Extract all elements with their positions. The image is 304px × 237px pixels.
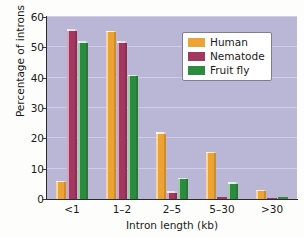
bar bbox=[78, 41, 88, 199]
legend-swatch-icon bbox=[188, 52, 205, 61]
bar bbox=[128, 75, 138, 199]
bar bbox=[256, 190, 266, 199]
bar-shade bbox=[164, 132, 166, 199]
intron-length-bar-chart: Percentage of introns 0102030405060 <11–… bbox=[0, 0, 304, 237]
bar bbox=[167, 191, 177, 199]
x-axis-title: Intron length (kb) bbox=[47, 219, 297, 231]
bar-edge bbox=[228, 182, 230, 199]
legend-label: Fruit fly bbox=[210, 65, 249, 76]
legend-swatch-icon bbox=[188, 66, 205, 75]
y-tick-label: 60 bbox=[4, 11, 44, 23]
bar-shade bbox=[86, 41, 88, 199]
y-tick-label: 0 bbox=[4, 193, 44, 205]
bar-shade bbox=[214, 152, 216, 199]
legend-label: Nematode bbox=[210, 51, 265, 62]
bar-shade bbox=[125, 41, 127, 199]
bar-shade bbox=[186, 178, 188, 199]
x-tick-label: >30 bbox=[242, 203, 302, 215]
bar bbox=[206, 152, 216, 199]
chart-legend: HumanNematodeFruit fly bbox=[182, 32, 272, 81]
legend-label: Human bbox=[210, 37, 248, 48]
bar bbox=[228, 182, 238, 199]
bar bbox=[156, 132, 166, 199]
y-tick-label: 10 bbox=[4, 163, 44, 175]
bar-shade bbox=[64, 181, 66, 199]
bar-edge bbox=[167, 191, 169, 199]
bar-edge bbox=[67, 29, 69, 199]
bar-group bbox=[47, 17, 97, 199]
bar-edge bbox=[206, 152, 208, 199]
x-axis-line bbox=[46, 199, 298, 200]
y-tick-label: 50 bbox=[4, 41, 44, 53]
y-axis-line bbox=[46, 16, 47, 200]
bar bbox=[117, 41, 127, 199]
bar-edge bbox=[117, 41, 119, 199]
bar-edge bbox=[128, 75, 130, 199]
bar bbox=[106, 31, 116, 199]
legend-item: Nematode bbox=[188, 51, 265, 62]
legend-swatch-icon bbox=[188, 38, 205, 47]
bar-edge bbox=[78, 41, 80, 199]
bar-shade bbox=[114, 31, 116, 199]
legend-item: Fruit fly bbox=[188, 65, 265, 76]
bar-shade bbox=[136, 75, 138, 199]
bar bbox=[178, 178, 188, 199]
bar-edge bbox=[256, 190, 258, 199]
bar-shade bbox=[264, 190, 266, 199]
bar-shade bbox=[236, 182, 238, 199]
y-tick-label: 20 bbox=[4, 132, 44, 144]
bar bbox=[56, 181, 66, 199]
bar-group bbox=[97, 17, 147, 199]
bar-shade bbox=[75, 29, 77, 199]
bar bbox=[67, 29, 77, 199]
y-tick-label: 40 bbox=[4, 72, 44, 84]
bar-edge bbox=[156, 132, 158, 199]
bar-edge bbox=[106, 31, 108, 199]
bar-edge bbox=[56, 181, 58, 199]
bar-edge bbox=[178, 178, 180, 199]
y-tick-label: 30 bbox=[4, 102, 44, 114]
legend-item: Human bbox=[188, 37, 265, 48]
bar-shade bbox=[175, 191, 177, 199]
